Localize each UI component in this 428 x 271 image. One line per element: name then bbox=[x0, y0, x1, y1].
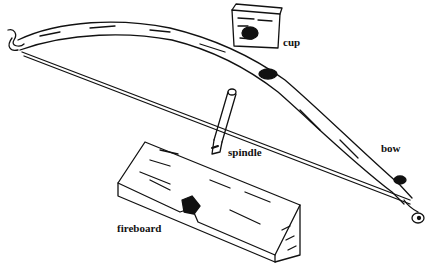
spindle bbox=[212, 89, 236, 154]
bow-drill-drawing bbox=[0, 0, 428, 271]
bow-string bbox=[22, 52, 410, 204]
bow-drill-illustration: cup bow spindle fireboard bbox=[0, 0, 428, 271]
label-spindle: spindle bbox=[228, 146, 262, 158]
cup bbox=[232, 4, 282, 48]
bow bbox=[8, 22, 424, 223]
label-cup: cup bbox=[283, 36, 300, 48]
label-fireboard: fireboard bbox=[117, 222, 161, 234]
fireboard bbox=[118, 142, 300, 262]
label-bow: bow bbox=[381, 142, 401, 154]
